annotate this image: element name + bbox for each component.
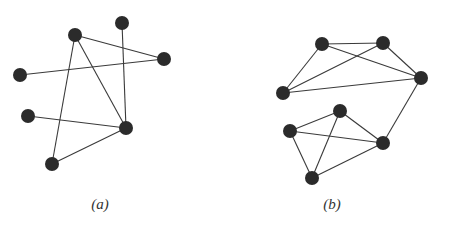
edge-a2-a6 bbox=[122, 23, 126, 128]
edge-a4-a3 bbox=[20, 59, 164, 75]
node-a1 bbox=[68, 28, 82, 42]
node-a2 bbox=[115, 16, 129, 30]
edge-b8-b7 bbox=[312, 143, 383, 178]
graph-figure bbox=[0, 0, 449, 227]
node-b4 bbox=[276, 86, 290, 100]
caption-b: (b) bbox=[323, 196, 341, 213]
node-a4 bbox=[13, 68, 27, 82]
edge-b6-b8 bbox=[290, 131, 312, 178]
node-a5 bbox=[21, 109, 35, 123]
graph-b bbox=[276, 36, 428, 185]
edge-b4-b3 bbox=[283, 78, 421, 93]
edge-b2-b4 bbox=[283, 43, 383, 93]
graph-a-edges bbox=[20, 23, 164, 164]
edge-b1-b2 bbox=[322, 43, 383, 44]
node-b3 bbox=[414, 71, 428, 85]
graph-a bbox=[13, 16, 171, 171]
edge-b2-b3 bbox=[383, 43, 421, 78]
node-a3 bbox=[157, 52, 171, 66]
edge-b3-b7 bbox=[383, 78, 421, 143]
edge-a5-a6 bbox=[28, 116, 126, 128]
node-b7 bbox=[376, 136, 390, 150]
node-b6 bbox=[283, 124, 297, 138]
node-b5 bbox=[333, 104, 347, 118]
node-b1 bbox=[315, 37, 329, 51]
node-b2 bbox=[376, 36, 390, 50]
edge-a1-a6 bbox=[75, 35, 126, 128]
edge-a1-a3 bbox=[75, 35, 164, 59]
edge-b1-b4 bbox=[283, 44, 322, 93]
node-a7 bbox=[45, 157, 59, 171]
node-a6 bbox=[119, 121, 133, 135]
caption-a: (a) bbox=[91, 196, 109, 213]
node-b8 bbox=[305, 171, 319, 185]
edge-a6-a7 bbox=[52, 128, 126, 164]
graph-b-edges bbox=[283, 43, 421, 178]
edge-a1-a7 bbox=[52, 35, 75, 164]
